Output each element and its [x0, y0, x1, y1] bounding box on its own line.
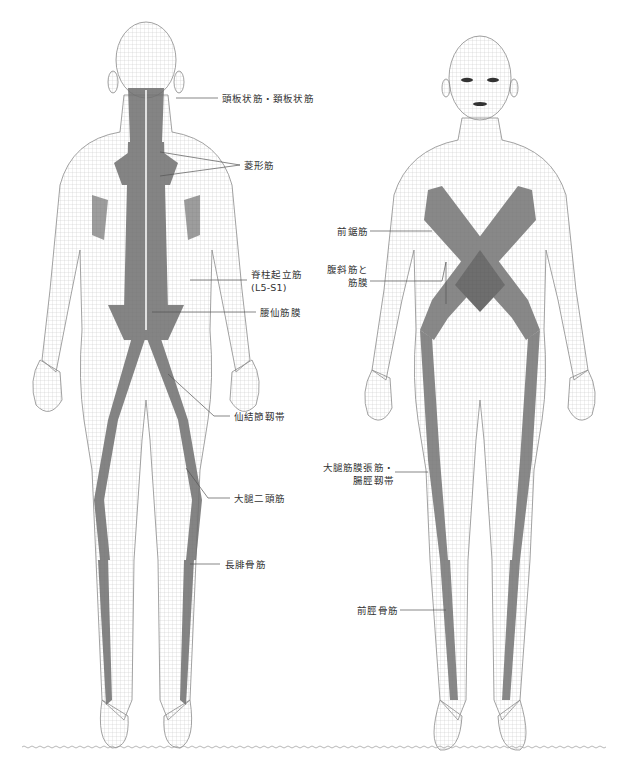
- label-erector-spinae-line2: (L5-S1): [251, 281, 302, 294]
- label-tfl-itband-line2: 腸脛靱帯: [318, 474, 394, 487]
- wavy-divider: [22, 745, 608, 749]
- label-tfl-itband-line1: 大腿筋膜張筋・: [318, 461, 394, 474]
- anatomy-figure: [0, 0, 630, 773]
- label-serratus-anterior: 前鋸筋: [328, 225, 368, 238]
- label-lumbosacral-fascia: 腰仙筋膜: [260, 306, 301, 319]
- label-sacrotuberous-ligament: 仙結節靱帯: [234, 410, 285, 423]
- label-tibialis-anterior: 前脛骨筋: [346, 604, 398, 617]
- label-obliques-line1: 腹斜筋と: [318, 263, 368, 276]
- label-rhomboid: 菱形筋: [244, 159, 275, 172]
- label-erector-spinae-line1: 脊柱起立筋: [251, 268, 302, 281]
- label-obliques: 腹斜筋と 筋膜: [318, 263, 368, 289]
- label-peroneus-longus: 長腓骨筋: [225, 558, 266, 571]
- back-view-figure: [33, 22, 259, 748]
- label-splenius: 頭板状筋・頚板状筋: [222, 92, 314, 105]
- label-obliques-line2: 筋膜: [318, 276, 368, 289]
- front-view-figure: [365, 36, 595, 750]
- label-erector-spinae: 脊柱起立筋 (L5-S1): [251, 268, 302, 294]
- label-biceps-femoris: 大腿二頭筋: [234, 492, 285, 505]
- label-tfl-itband: 大腿筋膜張筋・ 腸脛靱帯: [318, 461, 394, 487]
